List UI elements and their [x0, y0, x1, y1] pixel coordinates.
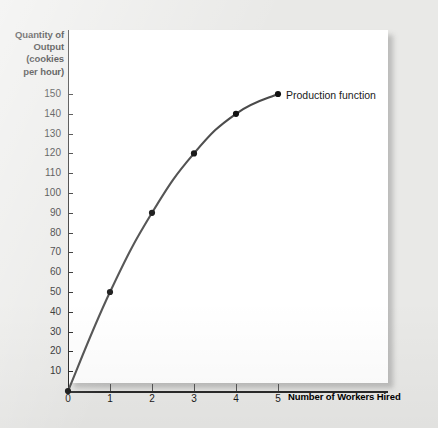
y-tick-mark	[68, 94, 73, 95]
y-axis-title-line-2: Output	[0, 41, 64, 53]
x-tick-label: 0	[58, 394, 78, 404]
y-tick-mark	[68, 213, 73, 214]
x-tick-label: 2	[142, 394, 162, 404]
x-tick-label: 3	[184, 394, 204, 404]
x-tick-label: 4	[226, 394, 246, 404]
y-tick-label: 130	[13, 129, 61, 139]
series-annotation-label: Production function	[286, 89, 376, 101]
y-tick-mark	[68, 332, 73, 333]
x-tick-mark	[110, 384, 111, 391]
y-tick-mark	[68, 153, 73, 154]
y-axis-title-line-1: Quantity of	[0, 29, 64, 41]
x-tick-mark	[236, 384, 237, 391]
y-tick-mark	[68, 193, 73, 194]
x-tick-label: 5	[268, 394, 288, 404]
y-tick-mark	[68, 134, 73, 135]
y-tick-mark	[68, 252, 73, 253]
production-function-figure: Quantity of Output (cookies per hour) Nu…	[0, 0, 438, 428]
y-tick-label: 40	[13, 307, 61, 317]
y-tick-label: 80	[13, 228, 61, 238]
y-tick-label: 90	[13, 208, 61, 218]
y-tick-mark	[68, 114, 73, 115]
y-tick-label: 10	[13, 366, 61, 376]
y-tick-label: 60	[13, 267, 61, 277]
y-tick-mark	[68, 371, 73, 372]
y-axis-title: Quantity of Output (cookies per hour)	[0, 29, 64, 78]
y-tick-label: 110	[13, 168, 61, 178]
y-tick-label: 100	[13, 188, 61, 198]
x-tick-mark	[152, 384, 153, 391]
y-axis-line	[68, 30, 69, 391]
x-tick-mark	[194, 384, 195, 391]
y-tick-label: 70	[13, 247, 61, 257]
x-tick-mark	[278, 384, 279, 391]
y-tick-mark	[68, 233, 73, 234]
plot-panel	[69, 30, 388, 383]
y-axis-title-line-3: (cookies	[0, 53, 64, 65]
y-tick-label: 140	[13, 109, 61, 119]
y-tick-label: 120	[13, 148, 61, 158]
y-tick-mark	[68, 312, 73, 313]
y-tick-mark	[68, 292, 73, 293]
x-axis-title: Number of Workers Hired	[288, 391, 401, 402]
y-tick-mark	[68, 272, 73, 273]
y-tick-label: 50	[13, 287, 61, 297]
y-tick-mark	[68, 173, 73, 174]
y-tick-label: 30	[13, 327, 61, 337]
y-axis-title-line-4: per hour)	[0, 66, 64, 78]
x-tick-label: 1	[100, 394, 120, 404]
y-tick-label: 20	[13, 346, 61, 356]
y-tick-label: 150	[13, 89, 61, 99]
y-tick-mark	[68, 351, 73, 352]
